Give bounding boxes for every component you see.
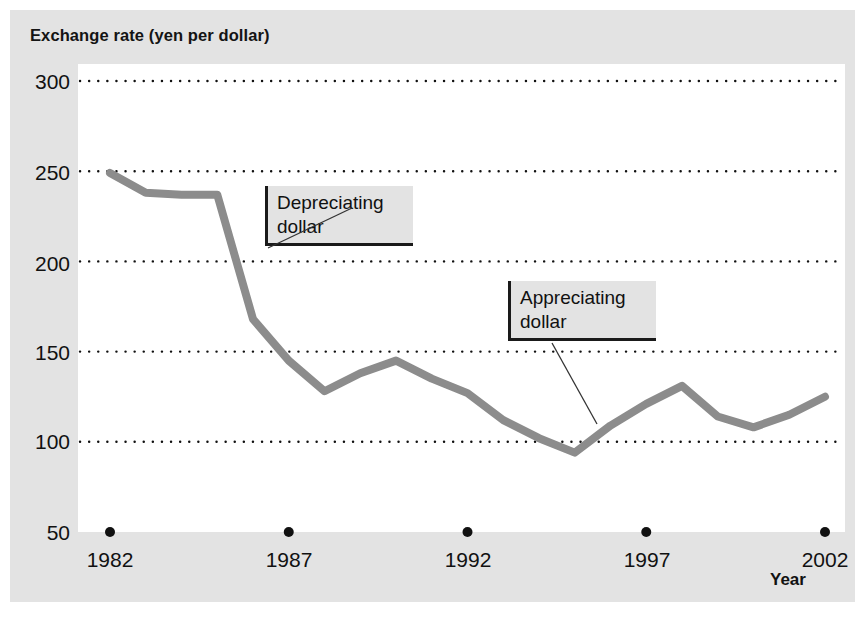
x-tick-dots (105, 527, 830, 537)
chart-graphics-overlay (0, 0, 863, 620)
annotation-leader-line-depreciating (268, 208, 352, 248)
annotation-leader-line-appreciating (552, 343, 597, 424)
chart-figure: Exchange rate (yen per dollar) 300 250 2… (0, 0, 863, 620)
data-line-exchange-rate (110, 173, 825, 453)
